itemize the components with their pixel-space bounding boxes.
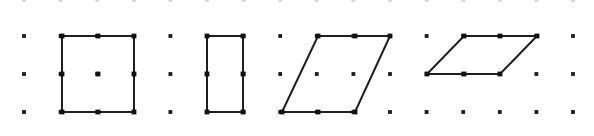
grid-dot-layer (22, 0, 575, 114)
vertex-dot (241, 34, 246, 39)
shape-rectangle (207, 36, 243, 112)
vertex-dot (96, 34, 101, 39)
grid-dot (461, 0, 465, 2)
vertex-dot (425, 72, 430, 77)
vertex-dot (132, 72, 137, 77)
grid-dot (205, 0, 209, 2)
grid-dot (169, 0, 173, 2)
grid-dot (242, 0, 246, 2)
grid-dot (388, 72, 392, 76)
grid-dot (571, 110, 575, 114)
vertex-dot (205, 110, 210, 115)
vertex-dot (96, 110, 101, 115)
grid-dot (388, 110, 392, 114)
vertex-dot (96, 72, 101, 77)
grid-dot (22, 72, 26, 76)
vertex-dot (388, 34, 393, 39)
vertex-dot (241, 72, 246, 77)
shape-parallelogram-tall (282, 36, 390, 112)
grid-dot (169, 110, 173, 114)
vertex-dot (498, 72, 503, 77)
vertex-dot (132, 110, 137, 115)
grid-dot (169, 34, 173, 38)
vertex-dot (316, 34, 321, 39)
grid-dot (22, 110, 26, 114)
grid-dot (278, 72, 282, 76)
grid-dot (535, 72, 539, 76)
vertex-dot (280, 110, 285, 115)
grid-dot (95, 0, 99, 2)
vertex-dot (498, 34, 503, 39)
grid-dot (535, 0, 539, 2)
geoboard-figure (0, 0, 594, 136)
figure-svg-surface (0, 0, 594, 136)
grid-dot (352, 0, 356, 2)
grid-dot (132, 0, 136, 2)
vertex-dot (316, 110, 321, 115)
vertex-dot (60, 72, 65, 77)
grid-dot (22, 0, 26, 2)
vertex-dot (60, 110, 65, 115)
grid-dot (278, 34, 282, 38)
grid-dot (571, 72, 575, 76)
grid-dot (315, 72, 319, 76)
vertex-dot (353, 34, 358, 39)
grid-dot (169, 72, 173, 76)
vertex-dot (241, 110, 246, 115)
grid-dot (535, 110, 539, 114)
grid-dot (59, 0, 63, 2)
grid-dot (388, 0, 392, 2)
vertex-dot (132, 34, 137, 39)
vertex-dot (205, 34, 210, 39)
grid-dot (498, 110, 502, 114)
grid-dot (352, 72, 356, 76)
grid-dot (278, 0, 282, 2)
vertex-dot (205, 72, 210, 77)
grid-dot (498, 0, 502, 2)
grid-dot (22, 34, 26, 38)
grid-dot (315, 0, 319, 2)
grid-dot (571, 0, 575, 2)
vertex-dot (462, 72, 467, 77)
grid-dot (571, 34, 575, 38)
vertex-dot (60, 34, 65, 39)
grid-dot (425, 0, 429, 2)
vertex-dot (462, 34, 467, 39)
grid-dot (425, 110, 429, 114)
vertex-dot (535, 34, 540, 39)
grid-dot (425, 34, 429, 38)
grid-dot (461, 110, 465, 114)
vertex-dot (353, 110, 358, 115)
shape-parallelogram-wide (427, 36, 537, 74)
